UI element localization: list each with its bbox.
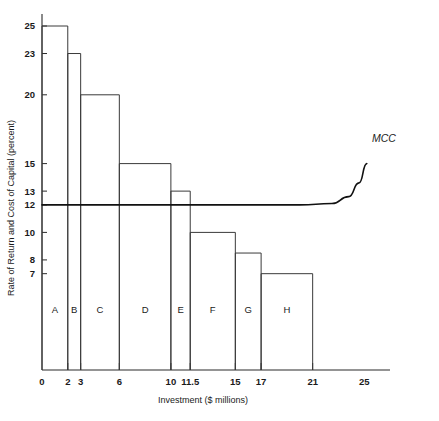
bar-label-e: E [177,304,183,315]
y-axis-title: Rate of Return and Cost of Capital (perc… [6,120,16,296]
bar-a [42,26,68,370]
x-axis-title: Investment ($ millions) [158,395,248,405]
bar-label-f: F [210,304,216,315]
y-tick-label: 12 [24,199,35,210]
bar-label-b: B [71,304,77,315]
bar-label-h: H [283,304,290,315]
x-tick-label: 3 [78,376,83,387]
bar-d [119,164,171,370]
x-tick-label: 15 [230,376,241,387]
bar-label-d: D [142,304,149,315]
y-tick-label: 23 [24,48,35,59]
bar-e [171,191,190,370]
x-tick-label: 6 [117,376,122,387]
bar-h [261,274,313,370]
x-tick-label: 2 [65,376,70,387]
x-axis-ticks: 02361011.515172125 [39,363,370,387]
y-axis-ticks: 2523201513121087 [24,20,47,279]
mcc-curve-label: MCC [372,132,396,144]
y-tick-label: 15 [24,158,35,169]
y-tick-label: 10 [24,227,35,238]
x-tick-label: 0 [39,376,44,387]
bar-c [81,95,120,370]
y-tick-label: 13 [24,186,35,197]
mcc-curve-group [42,164,367,205]
y-tick-label: 8 [30,254,35,265]
x-tick-label: 21 [307,376,318,387]
x-tick-label: 10 [166,376,177,387]
bar-b [68,54,81,370]
mcc-curve-path [42,164,367,205]
bar-series-investment-projects [42,26,313,370]
y-tick-label: 7 [30,268,35,279]
bar-label-c: C [97,304,104,315]
bar-label-a: A [52,304,59,315]
axes-group [42,14,390,370]
chart-canvas: 2523201513121087 02361011.515172125 ABCD… [0,0,439,421]
investment-opportunity-schedule-chart: 2523201513121087 02361011.515172125 ABCD… [0,0,439,421]
x-tick-label: 17 [256,376,267,387]
x-tick-label: 11.5 [181,376,200,387]
bar-label-g: G [245,304,252,315]
y-tick-label: 25 [24,20,35,31]
y-tick-label: 20 [24,89,35,100]
bar-f [190,232,235,370]
x-tick-label: 25 [359,376,370,387]
